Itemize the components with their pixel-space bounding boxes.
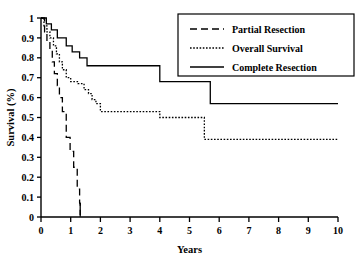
y-tick-label: 0.7	[22, 72, 35, 83]
y-tick-label: 0.1	[22, 192, 35, 203]
y-tick-label: 0.8	[22, 52, 35, 63]
y-tick-label: 1	[29, 13, 34, 24]
x-tick-label: 4	[157, 225, 162, 236]
y-tick-label: 0.2	[22, 172, 35, 183]
x-tick-label: 9	[306, 225, 311, 236]
x-tick-label: 5	[187, 225, 192, 236]
legend-label: Complete Resection	[232, 62, 317, 73]
y-tick-label: 0	[29, 212, 34, 223]
x-tick-label: 8	[276, 225, 281, 236]
y-tick-label: 0.6	[22, 92, 35, 103]
y-tick-label: 0.3	[22, 152, 35, 163]
series-line-partial-resection	[41, 18, 80, 217]
y-tick-label: 0.5	[22, 112, 35, 123]
x-tick-label: 2	[98, 225, 103, 236]
y-tick-label: 0.4	[22, 132, 35, 143]
x-tick-label: 0	[39, 225, 44, 236]
survival-chart: 00.10.20.30.40.50.60.70.80.9101234567891…	[0, 0, 361, 264]
legend-label: Partial Resection	[232, 24, 305, 35]
x-tick-label: 1	[68, 225, 73, 236]
x-tick-label: 7	[246, 225, 251, 236]
legend-label: Overall Survival	[232, 43, 303, 54]
x-tick-label: 10	[333, 225, 343, 236]
x-tick-label: 3	[128, 225, 133, 236]
x-axis-title: Years	[177, 244, 202, 255]
y-tick-label: 0.9	[22, 33, 35, 44]
plot-area: 00.10.20.30.40.50.60.70.80.9101234567891…	[0, 0, 361, 264]
x-tick-label: 6	[217, 225, 222, 236]
y-axis-title: Survival (%)	[5, 88, 17, 147]
